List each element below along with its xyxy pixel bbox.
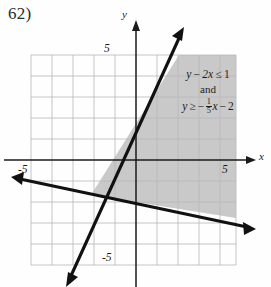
y-axis-label: y bbox=[122, 8, 127, 20]
graph-figure: 62) bbox=[0, 0, 271, 287]
coordinate-plane bbox=[0, 0, 271, 287]
fraction-denominator: 5 bbox=[206, 106, 212, 116]
inequality-first-minus: − bbox=[193, 68, 200, 80]
inequality-second-sign: − bbox=[198, 100, 205, 112]
inequality-first: y−2x≤1 bbox=[152, 68, 264, 82]
inequality-second-minus: − bbox=[219, 100, 226, 112]
inequality-second-constant: 2 bbox=[228, 100, 234, 112]
x-axis-label: x bbox=[259, 150, 264, 162]
inequality-second-y: y bbox=[182, 100, 187, 112]
tick-label-y-bottom: -5 bbox=[102, 251, 112, 263]
tick-label-x-right: 5 bbox=[222, 163, 228, 175]
inequality-fraction: 15 bbox=[206, 98, 212, 116]
fraction-numerator: 1 bbox=[206, 98, 212, 107]
inequality-second: y≥−15x−2 bbox=[152, 98, 264, 116]
inequality-connector: and bbox=[152, 83, 264, 96]
inequality-first-term: 2x bbox=[202, 68, 213, 80]
inequality-first-value: 1 bbox=[224, 68, 230, 80]
inequality-first-y: y bbox=[186, 68, 191, 80]
inequality-system-annotation: y−2x≤1 and y≥−15x−2 bbox=[152, 68, 264, 116]
inequality-second-relation: ≥ bbox=[189, 100, 195, 112]
inequality-second-variable: x bbox=[212, 100, 217, 112]
tick-label-y-top: 5 bbox=[104, 42, 110, 54]
inequality-first-relation: ≤ bbox=[215, 68, 222, 80]
tick-label-x-left: -5 bbox=[18, 163, 28, 175]
